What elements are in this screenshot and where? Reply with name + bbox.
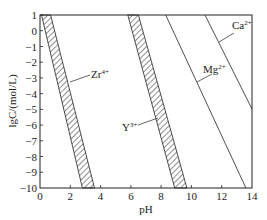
y-tick: −6 — [25, 119, 37, 131]
y-tick: −5 — [25, 103, 37, 115]
y-tick: −1 — [25, 41, 37, 53]
y-tick: −2 — [25, 56, 37, 68]
x-tick: 0 — [37, 190, 43, 202]
y-tick: 1 — [32, 9, 38, 21]
y-axis-title: lgC/(mol/L) — [6, 74, 19, 128]
x-tick: 2 — [68, 190, 74, 202]
y-tick: −8 — [25, 151, 37, 163]
x-tick: 8 — [158, 190, 164, 202]
x-axis-title: pH — [139, 203, 153, 215]
x-tick: 14 — [247, 190, 259, 202]
ca-label: Ca2+ — [232, 19, 252, 31]
y-tick: −3 — [25, 72, 37, 84]
y-tick: −4 — [25, 88, 37, 100]
mg-leader — [197, 74, 212, 82]
y-tick: −7 — [25, 135, 37, 147]
y-label: Y3+ — [122, 121, 137, 133]
ca-line — [205, 15, 252, 109]
mg-label: Mg2+ — [203, 63, 226, 75]
x-tick: 10 — [186, 190, 198, 202]
y-leader — [138, 118, 158, 125]
y-tick: −10 — [20, 182, 38, 194]
y-tick: 0 — [32, 25, 38, 37]
zr-leader — [70, 75, 90, 82]
zr-band — [42, 15, 95, 188]
x-tick: 12 — [216, 190, 227, 202]
y-tick: −9 — [25, 166, 37, 178]
solubility-chart: Zr4+ Y3+ Mg2+ Ca2+ 1 0 −1 −2 −3 −4 −5 −6… — [0, 0, 267, 220]
x-tick: 6 — [128, 190, 134, 202]
zr-label: Zr4+ — [91, 68, 109, 80]
ca-leader — [219, 33, 234, 42]
x-tick: 4 — [98, 190, 104, 202]
